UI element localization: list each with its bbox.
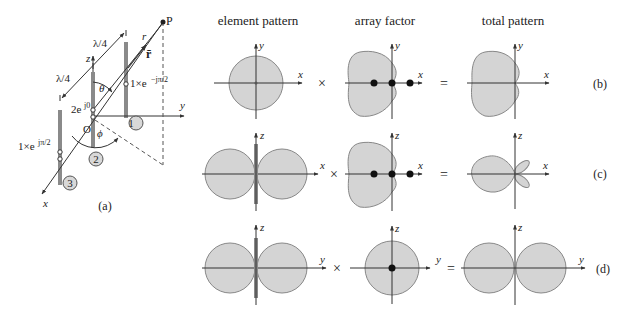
equals-operator-b: = bbox=[440, 76, 448, 91]
svg-text:z: z bbox=[394, 129, 400, 141]
r-label: r bbox=[142, 30, 147, 42]
feed-2-top bbox=[91, 108, 95, 112]
element-2-number: 2 bbox=[93, 153, 99, 165]
svg-text:z: z bbox=[259, 129, 265, 141]
theta-label: θ bbox=[99, 82, 105, 94]
svg-text:j0: j0 bbox=[83, 101, 90, 110]
svg-text:y: y bbox=[435, 253, 441, 265]
svg-text:x: x bbox=[417, 68, 423, 80]
r-unit-vector bbox=[128, 45, 146, 68]
y-axis-label: y bbox=[179, 99, 185, 111]
svg-text:x: x bbox=[542, 159, 548, 171]
element-1-number: 1 bbox=[128, 117, 134, 129]
x-axis-label: x bbox=[42, 197, 48, 209]
svg-text:y: y bbox=[258, 39, 264, 51]
element-3-number: 3 bbox=[67, 177, 73, 189]
z-axis-label: z bbox=[85, 52, 91, 64]
svg-text:x: x bbox=[543, 68, 549, 80]
figure-canvas: 1 2 3 P r r̄ z y x O θ ϕ λ/4 λ/4 1×e −jπ… bbox=[0, 0, 629, 327]
svg-text:x: x bbox=[417, 159, 423, 171]
feed-3-bottom bbox=[58, 157, 62, 161]
origin-label: O bbox=[83, 123, 91, 135]
spacing-left-label: λ/4 bbox=[56, 72, 70, 84]
svg-text:z: z bbox=[517, 221, 523, 233]
row-d-label: (d) bbox=[596, 262, 610, 276]
header-total-pattern: total pattern bbox=[482, 13, 545, 28]
svg-text:z: z bbox=[259, 221, 265, 233]
row-d: z y × z y = z y (d) bbox=[202, 221, 610, 305]
array-element-dot bbox=[407, 80, 414, 87]
svg-text:2e: 2e bbox=[71, 103, 82, 115]
panel-a-caption: (a) bbox=[98, 199, 111, 213]
svg-text:−jπ/2: −jπ/2 bbox=[151, 75, 168, 84]
times-operator-b: × bbox=[318, 76, 326, 91]
equals-operator-c: = bbox=[440, 167, 448, 182]
array-element-dot bbox=[389, 80, 396, 87]
spacing-top-label: λ/4 bbox=[93, 37, 107, 49]
times-operator-d: × bbox=[333, 261, 341, 276]
panel-a-geometry bbox=[42, 20, 184, 195]
row-c-label: (c) bbox=[593, 167, 606, 181]
svg-text:x: x bbox=[319, 159, 325, 171]
equals-operator-d: = bbox=[447, 261, 455, 276]
svg-text:y: y bbox=[578, 253, 584, 265]
row-b-label: (b) bbox=[593, 77, 607, 91]
svg-text:x: x bbox=[297, 68, 303, 80]
svg-text:y: y bbox=[319, 253, 325, 265]
total-pattern-b bbox=[472, 51, 520, 116]
point-p-label: P bbox=[166, 14, 173, 28]
phi-label: ϕ bbox=[97, 127, 103, 139]
feed-2-bottom bbox=[91, 115, 95, 119]
feed-1 bbox=[124, 82, 128, 86]
excitation-2: 2e j0 bbox=[71, 101, 90, 115]
svg-text:1×e: 1×e bbox=[18, 140, 35, 152]
row-b: x y × y x = y x (b) bbox=[214, 39, 607, 119]
svg-text:z: z bbox=[517, 129, 523, 141]
svg-text:jπ/2: jπ/2 bbox=[37, 138, 50, 147]
svg-text:1×e: 1×e bbox=[130, 77, 147, 89]
svg-text:z: z bbox=[394, 222, 400, 234]
array-element-dot bbox=[389, 265, 396, 272]
header-element-pattern: element pattern bbox=[218, 13, 299, 28]
svg-text:y: y bbox=[517, 39, 523, 51]
excitation-1: 1×e −jπ/2 bbox=[130, 75, 168, 89]
header-array-factor: array factor bbox=[355, 13, 416, 28]
r-vector-label: r̄ bbox=[146, 47, 152, 61]
array-element-dot bbox=[371, 80, 378, 87]
feed-3-top bbox=[58, 150, 62, 154]
row-c: z x × z x = z x (c) bbox=[202, 129, 607, 211]
svg-text:y: y bbox=[394, 39, 400, 51]
point-p bbox=[161, 20, 166, 25]
times-operator-c: × bbox=[330, 167, 338, 182]
excitation-3: 1×e jπ/2 bbox=[18, 138, 50, 152]
